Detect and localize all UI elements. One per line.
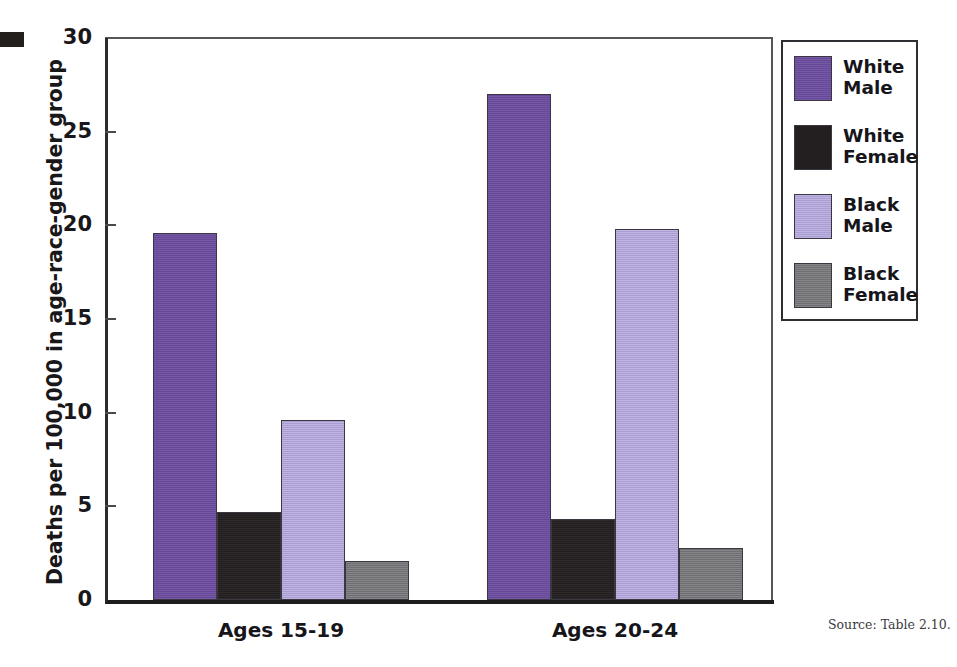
- bar-ages-15-19-black-male: [281, 420, 345, 600]
- legend-swatch-icon: [794, 263, 832, 308]
- source-note: Source: Table 2.10.: [828, 617, 951, 632]
- chart-legend: WhiteMaleWhiteFemaleBlackMaleBlackFemale: [781, 40, 918, 321]
- y-axis-tick-label: 0: [32, 589, 92, 610]
- legend-label-line1: White: [843, 125, 918, 146]
- legend-label-line1: Black: [843, 194, 899, 215]
- legend-swatch-icon: [794, 194, 832, 239]
- y-axis-tick-label: 10: [32, 402, 92, 423]
- legend-label-line2: Female: [843, 146, 918, 167]
- y-axis-tick: [105, 224, 116, 226]
- legend-swatch-icon: [794, 56, 832, 101]
- legend-item-black-male[interactable]: BlackMale: [794, 194, 899, 239]
- legend-item-label: WhiteFemale: [843, 125, 918, 167]
- y-axis-tick-label: 20: [32, 214, 92, 235]
- y-axis-tick: [105, 505, 116, 507]
- bar-ages-15-19-black-female: [345, 561, 409, 600]
- y-axis-tick-label: 30: [32, 27, 92, 48]
- legend-swatch-icon: [794, 125, 832, 170]
- bar-ages-20-24-black-male: [615, 229, 679, 600]
- legend-label-line2: Male: [843, 215, 899, 236]
- legend-label-line1: White: [843, 56, 904, 77]
- legend-item-white-male[interactable]: WhiteMale: [794, 56, 904, 101]
- y-axis-tick-label: 5: [32, 495, 92, 516]
- legend-label-line1: Black: [843, 263, 918, 284]
- legend-item-black-female[interactable]: BlackFemale: [794, 263, 918, 308]
- bar-ages-20-24-white-female: [551, 519, 615, 600]
- legend-label-line2: Male: [843, 77, 904, 98]
- bar-ages-20-24-black-female: [679, 548, 743, 600]
- legend-label-line2: Female: [843, 284, 918, 305]
- legend-item-label: BlackMale: [843, 194, 899, 236]
- y-axis-tick-labels: 302520151050: [28, 0, 92, 667]
- x-axis-label-ages-15-19: Ages 15-19: [161, 618, 401, 642]
- bar-chart-figure: Deaths per 100,000 in age-race-gender gr…: [0, 0, 957, 667]
- bars-layer: [105, 38, 771, 600]
- x-axis-label-ages-20-24: Ages 20-24: [495, 618, 735, 642]
- y-axis-tick: [105, 412, 116, 414]
- y-axis-tick-label: 25: [32, 121, 92, 142]
- bar-ages-15-19-white-male: [153, 233, 217, 600]
- y-axis-tick: [105, 318, 116, 320]
- y-axis-tick-label: 15: [32, 308, 92, 329]
- legend-item-label: BlackFemale: [843, 263, 918, 305]
- bar-ages-15-19-white-female: [217, 512, 281, 600]
- y-axis-tick: [105, 131, 116, 133]
- legend-item-label: WhiteMale: [843, 56, 904, 98]
- bar-ages-20-24-white-male: [487, 94, 551, 600]
- legend-item-white-female[interactable]: WhiteFemale: [794, 125, 918, 170]
